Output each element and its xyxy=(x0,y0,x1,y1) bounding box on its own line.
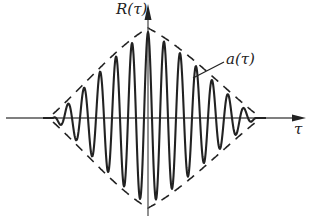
y-axis-label: R(τ) xyxy=(116,2,147,17)
autocorrelation-plot xyxy=(0,0,325,219)
x-axis-label: τ xyxy=(294,122,302,137)
diagram-canvas: R(τ) a(τ) τ xyxy=(0,0,325,219)
envelope-label: a(τ) xyxy=(226,52,255,67)
